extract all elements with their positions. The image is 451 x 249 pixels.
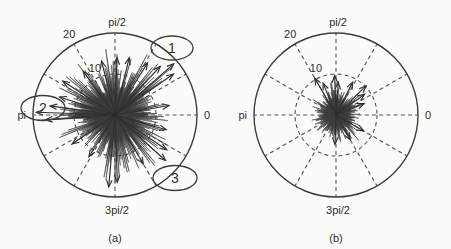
figure-canvas: 0pi/2pi3pi/22010123(a)0pi/2pi3pi/22010(b… bbox=[0, 0, 451, 249]
angle-label-pi: pi bbox=[238, 109, 247, 121]
callout-label-1: 1 bbox=[168, 40, 176, 56]
radial-tick-label-20: 20 bbox=[284, 28, 296, 40]
radial-tick-label-10: 10 bbox=[310, 62, 322, 74]
panel-caption-b: (b) bbox=[329, 232, 342, 244]
angle-label-pi-over-2: pi/2 bbox=[329, 16, 347, 28]
radial-tick-label-10: 10 bbox=[89, 62, 101, 74]
callout-label-3: 3 bbox=[171, 170, 179, 186]
angle-label-0: 0 bbox=[204, 109, 210, 121]
callout-label-2: 2 bbox=[39, 100, 47, 116]
angle-label-0: 0 bbox=[425, 109, 431, 121]
polar-figure: 0pi/2pi3pi/22010123(a)0pi/2pi3pi/22010(b… bbox=[0, 0, 451, 249]
panel-caption-a: (a) bbox=[108, 232, 121, 244]
angle-label-3pi-over-2: 3pi/2 bbox=[326, 204, 350, 216]
radial-tick-label-20: 20 bbox=[63, 28, 75, 40]
angle-label-pi-over-2: pi/2 bbox=[108, 16, 126, 28]
angle-label-3pi-over-2: 3pi/2 bbox=[105, 204, 129, 216]
